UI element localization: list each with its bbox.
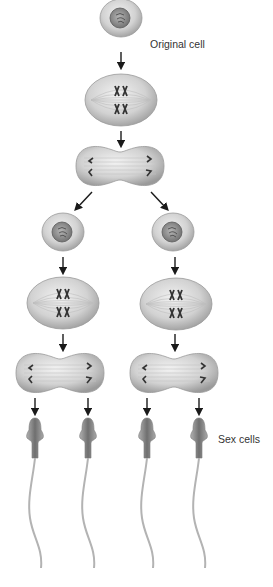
daughter-cell-left: [42, 213, 84, 251]
arrow-branch-right-icon: [151, 192, 166, 208]
arrow-branch-left-icon: [77, 192, 92, 208]
original-cell-label: Original cell: [150, 38, 205, 50]
metaphase-2-cell-right: [140, 278, 212, 330]
anaphase-1-cell: [76, 146, 164, 185]
metaphase-2-cell-left: [27, 277, 99, 329]
sex-cell-4: [191, 418, 208, 568]
meiosis-diagram: [0, 0, 273, 587]
sex-cells-label: Sex cells: [218, 433, 260, 445]
daughter-cell-right: [152, 213, 194, 251]
sex-cell-3: [139, 418, 156, 568]
anaphase-2-cell-right: [130, 353, 218, 392]
metaphase-1-cell: [85, 74, 157, 126]
sex-cell-1: [27, 418, 44, 568]
sex-cell-2: [80, 418, 97, 568]
original-cell: [100, 0, 142, 37]
anaphase-2-cell-left: [16, 353, 104, 392]
